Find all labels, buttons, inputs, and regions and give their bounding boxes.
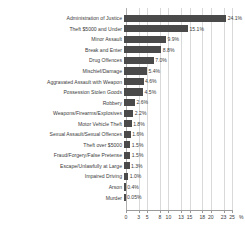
bar-track: 24.1% — [124, 13, 245, 24]
bar-row[interactable]: Murder0.05% — [0, 192, 245, 203]
bar-value-label: 0.05% — [127, 194, 141, 200]
bar-chart: Administration of Justice24.1%Theft $500… — [0, 0, 245, 239]
x-axis-tick-label: 10 — [166, 214, 172, 220]
bar-category-label: Break and Enter — [0, 47, 124, 53]
bar[interactable] — [124, 78, 144, 85]
bar-category-label: Theft $5000 and Under — [0, 26, 124, 32]
x-axis-tick — [147, 210, 148, 213]
x-axis-tick-label: 3 — [137, 214, 140, 220]
bar[interactable] — [124, 15, 226, 22]
bar[interactable] — [124, 120, 132, 127]
bar[interactable] — [124, 194, 126, 201]
x-axis-tick — [211, 210, 212, 213]
bar[interactable] — [124, 110, 133, 117]
bar-track: 0.05% — [124, 192, 245, 203]
bar-track: 4.6% — [124, 76, 245, 87]
bar-track: 0.4% — [124, 182, 245, 193]
x-axis-tick-label: 18 — [199, 214, 205, 220]
x-axis-tick — [126, 210, 127, 213]
bar-value-label: 2.6% — [137, 99, 149, 105]
bar-track: 1.6% — [124, 129, 245, 140]
bar[interactable] — [124, 88, 143, 95]
bar-value-label: 4.5% — [145, 89, 157, 95]
x-axis-tick — [168, 210, 169, 213]
bar-value-label: 15.1% — [190, 26, 204, 32]
bar-row[interactable]: Arson0.4% — [0, 182, 245, 193]
bar[interactable] — [124, 36, 166, 43]
x-axis-tick-label: 8 — [158, 214, 161, 220]
bar[interactable] — [124, 141, 130, 148]
bar-category-label: Aggravated Assault with Weapon — [0, 79, 124, 85]
bar-row[interactable]: Theft $5000 and Under15.1% — [0, 24, 245, 35]
bar-track: 2.6% — [124, 97, 245, 108]
bar-value-label: 1.6% — [132, 131, 144, 137]
bar-row[interactable]: Sexual Assault/Sexual Offences1.6% — [0, 129, 245, 140]
bar-category-label: Possession Stolen Goods — [0, 89, 124, 95]
bar-value-label: 8.8% — [163, 47, 175, 53]
bar[interactable] — [124, 183, 126, 190]
bar-track: 1.5% — [124, 140, 245, 151]
bar-category-label: Fraud/Forgery/False Pretense — [0, 152, 124, 158]
x-axis-tick — [202, 210, 203, 213]
x-axis-tick-label: 20 — [208, 214, 214, 220]
bar-row[interactable]: Mischief/Damage5.4% — [0, 66, 245, 77]
bar-value-label: 7.0% — [155, 57, 167, 63]
bar-row[interactable]: Robbery2.6% — [0, 97, 245, 108]
x-axis-tick-label: 5 — [146, 214, 149, 220]
bar-rows: Administration of Justice24.1%Theft $500… — [0, 13, 245, 203]
bar-category-label: Motor Vehicle Theft — [0, 121, 124, 127]
bar-track: 9.9% — [124, 34, 245, 45]
bar-row[interactable]: Possession Stolen Goods4.5% — [0, 87, 245, 98]
bar-category-label: Administration of Justice — [0, 15, 124, 21]
bar[interactable] — [124, 25, 188, 32]
bar-row[interactable]: Impaired Driving1.0% — [0, 171, 245, 182]
bar-row[interactable]: Weapons/Firearms/Explosives2.2% — [0, 108, 245, 119]
bar-track: 8.8% — [124, 45, 245, 56]
bar[interactable] — [124, 162, 130, 169]
bar[interactable] — [124, 67, 147, 74]
x-axis-tick — [232, 210, 233, 213]
bar-row[interactable]: Motor Vehicle Theft1.8% — [0, 118, 245, 129]
bar-track: 5.4% — [124, 66, 245, 77]
bar-track: 7.0% — [124, 55, 245, 66]
bar-row[interactable]: Drug Offences7.0% — [0, 55, 245, 66]
bar[interactable] — [124, 173, 128, 180]
bar-category-label: Drug Offences — [0, 57, 124, 63]
bar-row[interactable]: Theft over $50001.5% — [0, 140, 245, 151]
bar-value-label: 2.2% — [135, 110, 147, 116]
bar-track: 1.0% — [124, 171, 245, 182]
x-axis-tick — [139, 210, 140, 213]
plot-area: Administration of Justice24.1%Theft $500… — [0, 0, 245, 239]
bar-value-label: 1.5% — [132, 142, 144, 148]
x-axis-tick-label: 25 — [229, 214, 235, 220]
bar[interactable] — [124, 152, 130, 159]
bar-value-label: 24.1% — [228, 15, 242, 21]
x-axis-tick — [160, 210, 161, 213]
x-axis-tick-label: 13 — [178, 214, 184, 220]
bar-category-label: Impaired Driving — [0, 173, 124, 179]
bar-row[interactable]: Minor Assault9.9% — [0, 34, 245, 45]
bar-row[interactable]: Aggravated Assault with Weapon4.6% — [0, 76, 245, 87]
bar-value-label: 1.8% — [133, 121, 145, 127]
bar-row[interactable]: Escape/Unlawfully at Large1.3% — [0, 161, 245, 172]
bar-category-label: Mischief/Damage — [0, 68, 124, 74]
bar-track: 4.5% — [124, 87, 245, 98]
bar-category-label: Sexual Assault/Sexual Offences — [0, 131, 124, 137]
x-axis-tick-labels: % 035810131518202325 — [126, 214, 244, 224]
bar[interactable] — [124, 57, 154, 64]
bar[interactable] — [124, 99, 135, 106]
bar-track: 15.1% — [124, 24, 245, 35]
x-axis-tick-label: 15 — [187, 214, 193, 220]
bar-category-label: Robbery — [0, 100, 124, 106]
bar-value-label: 1.5% — [132, 152, 144, 158]
bar[interactable] — [124, 131, 131, 138]
bar-row[interactable]: Fraud/Forgery/False Pretense1.5% — [0, 150, 245, 161]
bar-value-label: 0.4% — [127, 184, 139, 190]
bar-row[interactable]: Administration of Justice24.1% — [0, 13, 245, 24]
bar[interactable] — [124, 46, 161, 53]
x-axis-tick — [224, 210, 225, 213]
bar-row[interactable]: Break and Enter8.8% — [0, 45, 245, 56]
x-axis-tick — [181, 210, 182, 213]
bar-track: 1.3% — [124, 161, 245, 172]
bar-value-label: 4.6% — [145, 78, 157, 84]
